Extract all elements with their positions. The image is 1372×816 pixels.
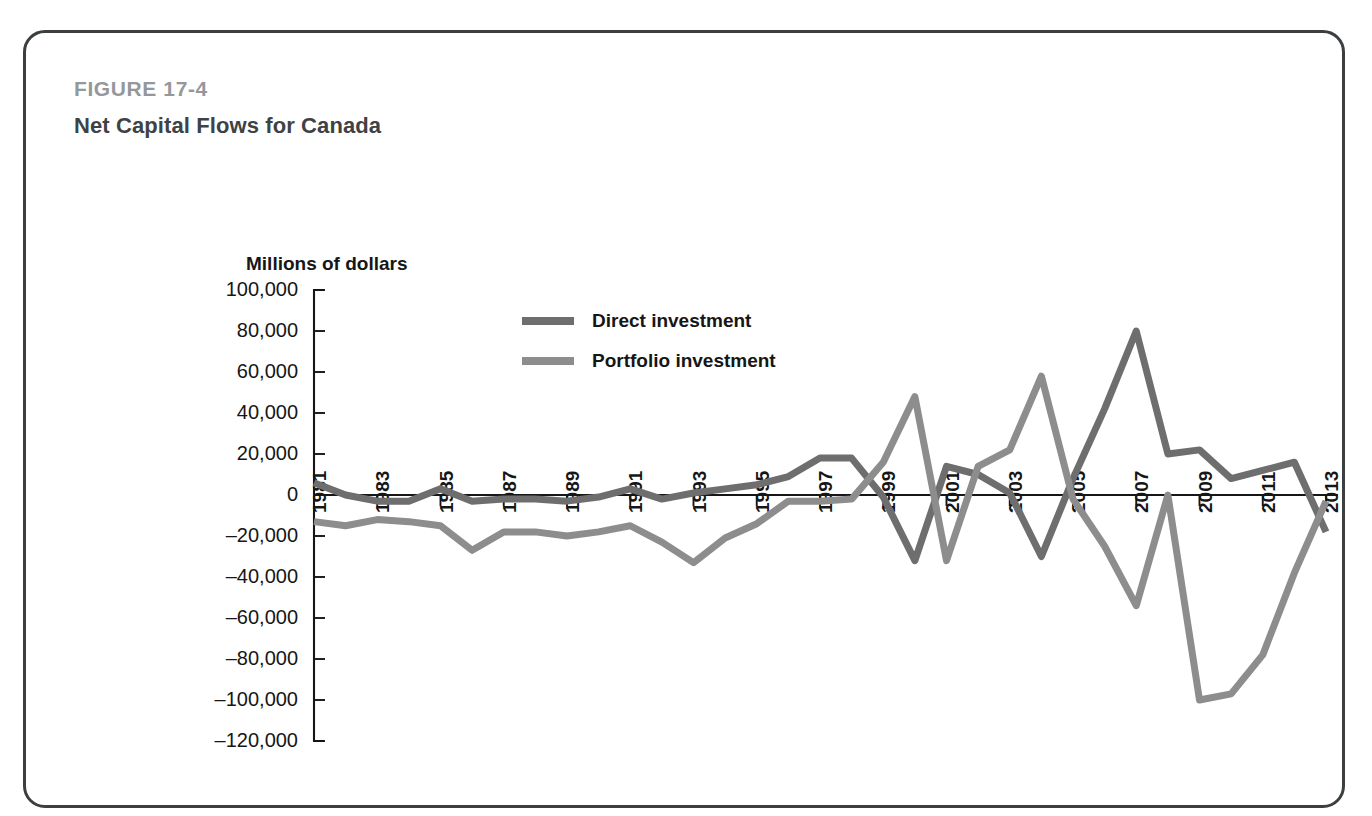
x-axis-tick-label: 1995 — [752, 470, 773, 513]
chart-plot-area: Millions of dollars 100,00080,00060,0004… — [26, 33, 1348, 811]
series-line-portfolio-investment — [314, 376, 1326, 700]
legend-label: Portfolio investment — [592, 350, 776, 371]
y-axis-tick-label: 100,000 — [226, 278, 298, 300]
y-axis-tick-label: 20,000 — [237, 442, 298, 464]
x-axis-tick-label: 1981 — [309, 470, 330, 513]
x-axis-tick-label: 2009 — [1195, 471, 1216, 513]
x-axis-tick-label: 1989 — [562, 471, 583, 513]
y-axis-spine — [314, 290, 324, 741]
y-axis: 100,00080,00060,00040,00020,0000–20,000–… — [215, 278, 325, 751]
x-axis: 1981198319851987198919911993199519971999… — [309, 470, 1342, 513]
y-axis-tick-label: –40,000 — [226, 565, 298, 587]
y-axis-tick-label: 40,000 — [237, 401, 298, 423]
y-axis-tick-label: 0 — [287, 483, 298, 505]
y-axis-tick-label: 80,000 — [237, 319, 298, 341]
series-lines — [314, 331, 1326, 700]
y-axis-tick-label: –20,000 — [226, 524, 298, 546]
y-axis-tick-label: –80,000 — [226, 647, 298, 669]
y-axis-tick-label: –120,000 — [215, 729, 298, 751]
x-axis-tick-label: 1987 — [499, 471, 520, 513]
legend-label: Direct investment — [592, 310, 752, 331]
y-axis-title-group: Millions of dollars — [246, 253, 408, 274]
x-axis-tick-label: 1983 — [372, 471, 393, 513]
y-axis-tick-label: –100,000 — [215, 688, 298, 710]
x-axis-tick-label: 2011 — [1258, 471, 1279, 513]
y-axis-title: Millions of dollars — [246, 253, 408, 274]
x-axis-tick-label: 2007 — [1131, 471, 1152, 513]
x-axis-tick-label: 1997 — [815, 471, 836, 513]
y-axis-tick-label: 60,000 — [237, 360, 298, 382]
chart-legend: Direct investmentPortfolio investment — [522, 310, 776, 371]
y-axis-tick-label: –60,000 — [226, 606, 298, 628]
line-chart: Millions of dollars 100,00080,00060,0004… — [26, 33, 1348, 811]
figure-frame: FIGURE 17-4 Net Capital Flows for Canada… — [23, 30, 1345, 808]
